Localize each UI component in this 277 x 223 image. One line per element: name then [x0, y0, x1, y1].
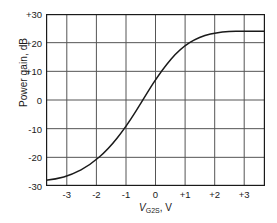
- y-tick-label: +20: [14, 37, 42, 48]
- chart-svg: [46, 14, 265, 186]
- x-axis-title: VG2S, V: [46, 202, 265, 214]
- x-axis-unit: , V: [160, 202, 172, 213]
- chart-figure: Power gain, dB +30 +20 +10 0 -10 -20 -30: [0, 0, 277, 223]
- y-tick-label: +10: [14, 66, 42, 77]
- plot-area: [46, 14, 265, 186]
- x-tick-label: -3: [52, 189, 82, 200]
- x-tick-label: -2: [81, 189, 111, 200]
- x-axis-tick-labels: -3 -2 -1 0 +1 +2 +3: [0, 189, 277, 203]
- x-axis-symbol: V: [139, 202, 146, 213]
- x-tick-label: +2: [200, 189, 230, 200]
- x-tick-label: 0: [141, 189, 171, 200]
- x-tick-label: +1: [170, 189, 200, 200]
- y-tick-label: +30: [14, 9, 42, 20]
- x-tick-label: +3: [229, 189, 259, 200]
- x-tick-label: -1: [111, 189, 141, 200]
- x-axis-subscript: G2S: [146, 207, 160, 214]
- y-tick-label: -20: [14, 152, 42, 163]
- y-tick-label: -10: [14, 123, 42, 134]
- y-tick-label: 0: [14, 95, 42, 106]
